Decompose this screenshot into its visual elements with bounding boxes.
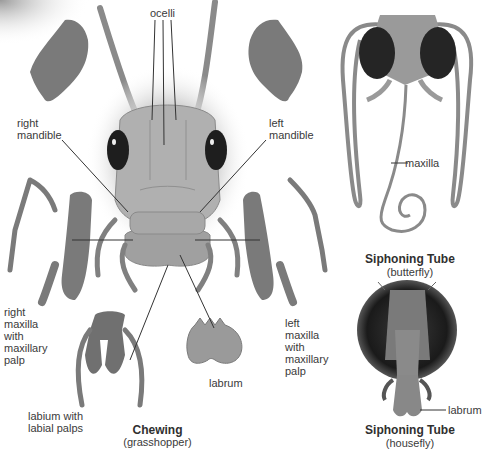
- label-labium: labium with labial palps: [28, 410, 83, 434]
- eye-left: [205, 130, 227, 170]
- right-maxilla-shape: [62, 192, 92, 300]
- label-left-maxilla: left maxilla with maxillary palp: [285, 317, 328, 377]
- mouthparts-diagram: ocelli right mandible left mandible righ…: [0, 0, 483, 450]
- butterfly-group: [342, 15, 471, 231]
- caption-chewing-title: Chewing: [115, 423, 200, 437]
- grasshopper-group: [10, 2, 325, 405]
- caption-chewing-sub: (grasshopper): [110, 436, 205, 448]
- caption-butterfly-sub: (butterfly): [355, 266, 465, 278]
- caption-butterfly-title: Siphoning Tube: [355, 252, 465, 266]
- butterfly-eye-right: [359, 27, 395, 79]
- left-maxilla-shape: [243, 192, 274, 300]
- label-ocelli: ocelli: [150, 7, 175, 19]
- butterfly-eye-left: [420, 27, 456, 79]
- label-maxilla: maxilla: [405, 157, 439, 169]
- labium-shape: [85, 311, 125, 373]
- grasshopper-head: [115, 105, 220, 228]
- housefly-group: [357, 280, 457, 416]
- caption-housefly-sub: (housefly): [355, 437, 465, 449]
- label-left-mandible: left mandible: [269, 117, 314, 141]
- left-mandible-shape: [248, 20, 302, 102]
- eye-right: [107, 130, 129, 170]
- label-right-maxilla: right maxilla with maxillary palp: [4, 306, 47, 366]
- label-labrum: labrum: [209, 377, 243, 389]
- label-right-mandible: right mandible: [17, 117, 62, 141]
- caption-housefly-title: Siphoning Tube: [355, 423, 465, 437]
- label-housefly-labrum: labrum: [448, 404, 482, 416]
- labrum-shape: [187, 318, 242, 363]
